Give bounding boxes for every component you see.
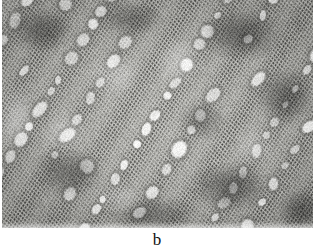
micrograph-canvas bbox=[2, 0, 313, 228]
figure-caption: b bbox=[0, 230, 318, 250]
figure-panel: b bbox=[0, 0, 318, 252]
micrograph-image bbox=[2, 0, 313, 228]
panel-label: b bbox=[153, 230, 162, 250]
